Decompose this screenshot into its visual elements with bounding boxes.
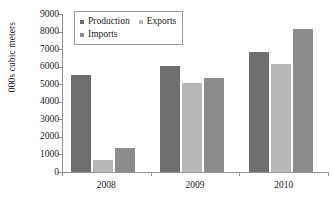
- y-axis-line: [62, 14, 63, 172]
- legend-swatch-production-icon: [80, 20, 84, 24]
- y-tick-label: 2000: [40, 130, 59, 142]
- x-axis-label-2008: 2008: [62, 180, 151, 190]
- legend-row-2: Imports: [80, 28, 176, 41]
- y-tick-label: 0: [54, 166, 59, 178]
- bar-exports-2008: [93, 160, 113, 172]
- y-tick-label: 3000: [40, 113, 59, 125]
- bar-production-2008: [71, 75, 91, 172]
- bar-chart: 000s cubic meters 0100020003000400050006…: [0, 0, 333, 202]
- legend-row-1: Production Exports: [80, 15, 176, 28]
- y-tick-label: 8000: [40, 25, 59, 37]
- y-tick-label: 7000: [40, 43, 59, 55]
- bar-imports-2010: [293, 29, 313, 172]
- chart-legend: Production Exports Imports: [74, 11, 183, 45]
- y-tick-label: 9000: [40, 8, 59, 20]
- y-tick-label: 6000: [40, 60, 59, 72]
- legend-swatch-imports-icon: [80, 33, 84, 37]
- legend-item-exports: Exports: [139, 15, 177, 28]
- legend-item-production: Production: [80, 15, 130, 28]
- bar-imports-2009: [204, 78, 224, 172]
- bar-exports-2009: [182, 83, 202, 172]
- x-tick-mark: [62, 172, 63, 176]
- bar-exports-2010: [271, 64, 291, 172]
- x-axis-label-2009: 2009: [151, 180, 240, 190]
- bar-imports-2008: [115, 148, 135, 172]
- y-axis-title: 000s cubic meters: [7, 0, 17, 122]
- bar-production-2009: [160, 66, 180, 172]
- x-tick-mark: [151, 172, 152, 176]
- legend-swatch-exports-icon: [139, 20, 143, 24]
- legend-label-production: Production: [88, 15, 130, 28]
- y-tick-label: 4000: [40, 95, 59, 107]
- bar-production-2010: [249, 52, 269, 172]
- legend-item-imports: Imports: [80, 28, 118, 41]
- x-axis-line: [62, 172, 328, 173]
- y-tick-label: 1000: [40, 148, 59, 160]
- y-tick-label: 5000: [40, 78, 59, 90]
- x-tick-mark: [239, 172, 240, 176]
- legend-label-exports: Exports: [147, 15, 177, 28]
- x-axis-label-2010: 2010: [239, 180, 328, 190]
- x-tick-mark: [328, 172, 329, 176]
- legend-label-imports: Imports: [88, 28, 118, 41]
